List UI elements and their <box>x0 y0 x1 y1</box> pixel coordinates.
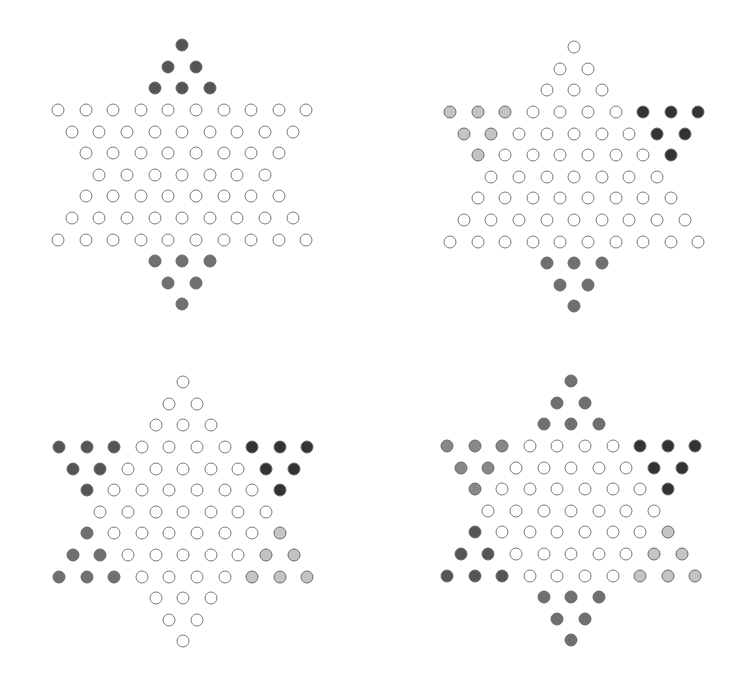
empty-hole <box>134 233 147 246</box>
empty-hole <box>121 168 134 181</box>
empty-hole <box>582 62 595 75</box>
empty-hole <box>537 504 550 517</box>
empty-hole <box>79 104 92 117</box>
marble-dark <box>689 440 702 453</box>
marble-lightgray <box>499 106 512 119</box>
empty-hole <box>485 214 498 227</box>
empty-hole <box>692 235 705 248</box>
marble-gray <box>94 549 107 562</box>
empty-hole <box>217 233 230 246</box>
marble-darkgray <box>468 569 481 582</box>
empty-hole <box>568 41 581 54</box>
marble-lightgray <box>675 548 688 561</box>
marble-darkgray <box>468 526 481 539</box>
marble-dark <box>301 441 314 454</box>
marble-lightgray <box>260 549 273 562</box>
empty-hole <box>565 504 578 517</box>
marble-gray <box>582 278 595 291</box>
empty-hole <box>582 149 595 162</box>
empty-hole <box>190 233 203 246</box>
marble-gray <box>592 418 605 431</box>
empty-hole <box>176 168 189 181</box>
empty-hole <box>107 190 120 203</box>
empty-hole <box>134 190 147 203</box>
empty-hole <box>595 214 608 227</box>
empty-hole <box>149 505 162 518</box>
marble-gray <box>176 255 189 268</box>
empty-hole <box>523 440 536 453</box>
marble-darkgray <box>53 441 66 454</box>
marble-gray <box>162 276 175 289</box>
marble-gray <box>565 375 578 388</box>
empty-hole <box>218 570 231 583</box>
empty-hole <box>135 484 148 497</box>
empty-hole <box>637 192 650 205</box>
empty-hole <box>204 419 217 432</box>
marble-darkgray <box>176 82 189 95</box>
empty-hole <box>540 214 553 227</box>
empty-hole <box>218 527 231 540</box>
empty-hole <box>93 168 106 181</box>
marble-lightgray <box>444 106 457 119</box>
empty-hole <box>245 147 258 160</box>
marble-dark <box>273 441 286 454</box>
empty-hole <box>286 125 299 138</box>
empty-hole <box>149 549 162 562</box>
marble-gray <box>176 298 189 311</box>
marble-gray <box>80 570 93 583</box>
empty-hole <box>217 104 230 117</box>
empty-hole <box>485 170 498 183</box>
empty-hole <box>620 504 633 517</box>
marble-gray <box>592 591 605 604</box>
empty-hole <box>609 149 622 162</box>
empty-hole <box>582 192 595 205</box>
marble-midgray <box>454 461 467 474</box>
empty-hole <box>664 192 677 205</box>
marble-midgray <box>496 440 509 453</box>
marble-midgray <box>441 440 454 453</box>
marble-dark <box>678 127 691 140</box>
marble-gray <box>551 396 564 409</box>
empty-hole <box>457 214 470 227</box>
marble-darkgray <box>441 569 454 582</box>
empty-hole <box>218 441 231 454</box>
empty-hole <box>163 527 176 540</box>
empty-hole <box>526 192 539 205</box>
marble-lightgray <box>273 570 286 583</box>
empty-hole <box>606 440 619 453</box>
empty-hole <box>510 548 523 561</box>
empty-hole <box>245 233 258 246</box>
empty-hole <box>637 235 650 248</box>
marble-lightgray <box>471 149 484 162</box>
marble-lightgray <box>648 548 661 561</box>
empty-hole <box>93 125 106 138</box>
empty-hole <box>286 212 299 225</box>
empty-hole <box>579 526 592 539</box>
empty-hole <box>496 526 509 539</box>
empty-hole <box>177 462 190 475</box>
empty-hole <box>272 147 285 160</box>
empty-hole <box>204 462 217 475</box>
marble-gray <box>190 276 203 289</box>
empty-hole <box>163 397 176 410</box>
marble-gray <box>565 634 578 647</box>
empty-hole <box>554 149 567 162</box>
empty-hole <box>471 192 484 205</box>
empty-hole <box>163 570 176 583</box>
empty-hole <box>568 170 581 183</box>
empty-hole <box>609 192 622 205</box>
marble-gray <box>568 300 581 313</box>
empty-hole <box>246 527 259 540</box>
empty-hole <box>551 483 564 496</box>
empty-hole <box>107 147 120 160</box>
empty-hole <box>540 170 553 183</box>
empty-hole <box>135 441 148 454</box>
empty-hole <box>191 441 204 454</box>
empty-hole <box>551 440 564 453</box>
empty-hole <box>554 235 567 248</box>
empty-hole <box>300 104 313 117</box>
empty-hole <box>537 548 550 561</box>
empty-hole <box>592 548 605 561</box>
marble-darkgray <box>80 441 93 454</box>
empty-hole <box>122 549 135 562</box>
